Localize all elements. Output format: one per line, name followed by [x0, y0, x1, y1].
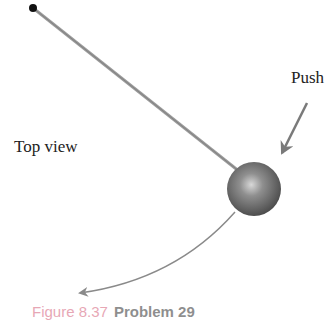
motion-path-arrow-icon [80, 212, 235, 293]
top-view-label: Top view [14, 137, 78, 157]
pivot-point [29, 4, 37, 12]
push-arrow-icon [282, 103, 307, 153]
push-label: Push [291, 68, 324, 88]
pendulum-ball [227, 162, 281, 216]
problem-number: Problem 29 [114, 303, 195, 320]
figure-number: Figure 8.37 [32, 303, 108, 320]
figure-caption: Figure 8.37Problem 29 [32, 303, 195, 320]
